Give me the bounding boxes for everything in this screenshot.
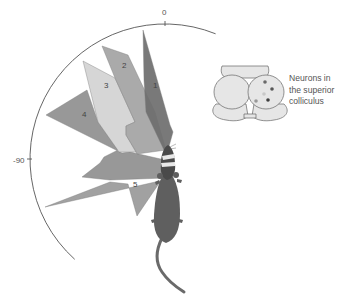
receptive-field-label: 2 <box>122 61 127 70</box>
receptive-fields: 45321 <box>45 30 173 216</box>
neuron-dot <box>270 87 274 91</box>
receptive-field-label: 1 <box>153 81 158 90</box>
mouse-ear-right <box>173 172 179 178</box>
caption-line: Neurons in <box>289 73 334 85</box>
receptive-field-label: 3 <box>104 81 109 90</box>
superior-colliculus-caption: Neurons in the superior colliculus <box>289 73 334 108</box>
neuron-dot <box>262 92 266 96</box>
mouse-ear-left <box>157 173 163 179</box>
receptive-field-label: 5 <box>133 180 138 189</box>
axis-label-minus-90: -90 <box>13 157 25 165</box>
superior-colliculus-right <box>248 75 284 109</box>
receptive-field-label: 4 <box>82 110 87 119</box>
receptive-field-diagram: 45321 <box>0 0 350 298</box>
superior-colliculus-left <box>214 75 250 109</box>
caption-line: the superior <box>289 85 334 97</box>
brain-midline-notch <box>244 114 256 118</box>
neuron-dot <box>254 99 258 103</box>
neuron-dot <box>263 80 267 84</box>
axis-label-0: 0 <box>162 9 166 17</box>
receptive-field-5: 5 <box>45 180 164 216</box>
brain-schematic <box>213 66 287 121</box>
neuron-dot <box>266 98 270 102</box>
mouse-front-paw-right <box>177 179 182 183</box>
mouse-tail <box>157 238 184 292</box>
caption-line: colliculus <box>289 96 334 108</box>
receptive-field-shape <box>45 180 164 216</box>
